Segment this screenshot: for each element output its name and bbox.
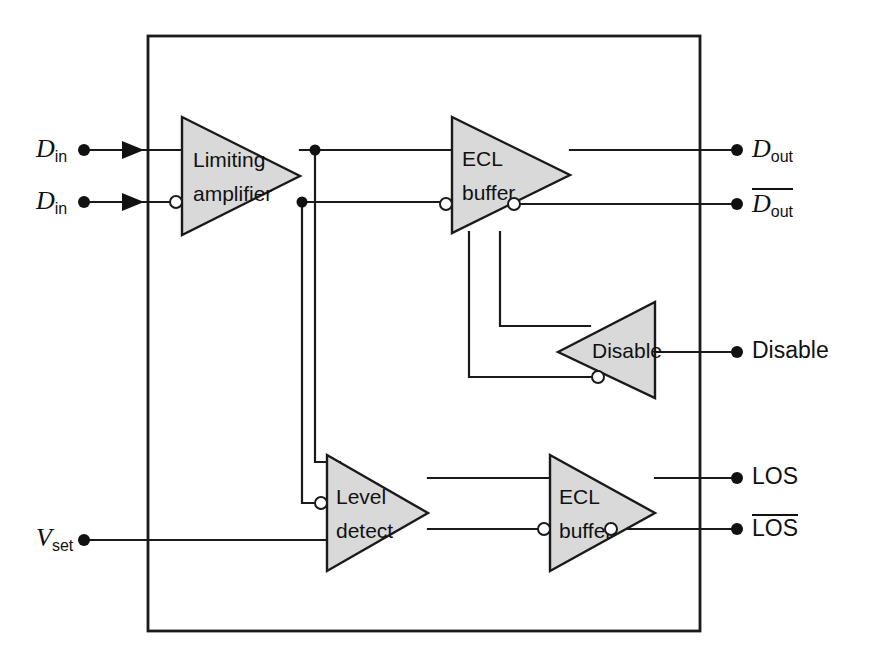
arrow-d-in-comp — [122, 193, 144, 211]
ecl-buffer-los-body — [550, 455, 655, 571]
terminal-d-in-true — [78, 144, 90, 156]
d-out-comp-symbol: D — [752, 189, 771, 218]
block-ecl-buffer-data: ECL buffer — [452, 117, 570, 233]
ecl-buffer-data-body — [452, 117, 570, 233]
ecl-buffer-los-label-line1: ECL — [559, 485, 600, 508]
pin-label-d-out-true: Dout — [752, 136, 793, 162]
block-level-detect: Level detect — [327, 455, 428, 571]
los-comp-text: LOS — [752, 515, 798, 541]
limiting-amplifier-label-line1: Limiting — [193, 148, 265, 171]
d-out-comp-subscript: out — [771, 203, 793, 220]
d-out-true-subscript: out — [771, 148, 793, 165]
bubble-ecl-data-out — [508, 198, 520, 210]
disable-pin-text: Disable — [752, 337, 829, 363]
pin-label-los-true: LOS — [752, 465, 798, 488]
flow-arrow-group — [122, 141, 144, 211]
limiting-amplifier-body — [182, 117, 300, 235]
d-in-true-subscript: in — [55, 148, 67, 165]
bubble-level-detect-in — [315, 497, 327, 509]
pin-label-d-in-comp: Din — [36, 188, 67, 214]
wire-tap-comp-to-leveldetect — [302, 202, 315, 503]
pin-label-v-set: Vset — [36, 525, 73, 551]
los-comp-overbar: LOS — [752, 514, 798, 540]
junction-data-true — [310, 145, 321, 156]
terminal-d-out-true — [731, 144, 743, 156]
level-detect-body — [327, 455, 428, 571]
terminal-disable — [731, 346, 743, 358]
bubble-limiting-amp-in — [170, 196, 182, 208]
wire-tap-true-to-leveldetect — [315, 150, 340, 462]
terminal-d-out-comp — [731, 198, 743, 210]
terminal-los-comp — [731, 523, 743, 535]
junction-data-comp — [297, 197, 308, 208]
diagram-canvas: Limiting amplifier ECL buffer Disable Le… — [0, 0, 879, 672]
disable-label: Disable — [592, 339, 662, 362]
bubble-ecl-los-out — [605, 523, 617, 535]
wire-disable-fb-upper — [500, 232, 590, 326]
terminal-d-in-comp — [78, 196, 90, 208]
arrow-d-in-true — [122, 141, 144, 159]
pin-label-d-in-true: Din — [36, 136, 67, 162]
block-diagram: Limiting amplifier ECL buffer Disable Le… — [0, 0, 879, 672]
block-limiting-amplifier: Limiting amplifier — [182, 117, 300, 235]
los-true-text: LOS — [752, 463, 798, 489]
level-detect-label-line1: Level — [336, 485, 386, 508]
bubble-disable-in — [592, 371, 604, 383]
v-set-subscript: set — [52, 537, 73, 554]
pin-label-d-out-comp: Dout — [752, 188, 793, 217]
limiting-amplifier-label-line2: amplifier — [193, 182, 272, 205]
terminal-v-set — [78, 534, 90, 546]
bubble-ecl-los-in — [538, 523, 550, 535]
d-out-comp-overbar: Dout — [752, 188, 793, 217]
d-in-comp-symbol: D — [36, 186, 55, 215]
pin-label-los-comp: LOS — [752, 514, 798, 540]
level-detect-label-line2: detect — [336, 519, 393, 542]
d-in-comp-subscript: in — [55, 200, 67, 217]
ecl-buffer-data-label-line1: ECL — [462, 147, 503, 170]
terminal-los-true — [731, 472, 743, 484]
bubble-ecl-data-in — [440, 198, 452, 210]
block-disable: Disable — [558, 302, 662, 398]
ecl-buffer-data-label-line2: buffer — [462, 181, 515, 204]
d-out-true-symbol: D — [752, 134, 771, 163]
pin-label-disable: Disable — [752, 339, 829, 362]
d-in-true-symbol: D — [36, 134, 55, 163]
v-set-symbol: V — [36, 523, 52, 552]
block-ecl-buffer-los: ECL buffer — [550, 455, 655, 571]
